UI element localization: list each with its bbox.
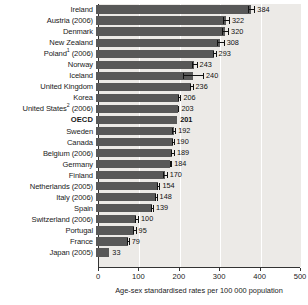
bar <box>96 61 194 69</box>
error-bar-cap-low <box>163 172 164 178</box>
category-label: Austria (2006) <box>0 15 96 26</box>
bar <box>96 149 172 157</box>
category-label: Norway <box>0 59 96 70</box>
category-label: Italy (2006) <box>0 192 96 203</box>
category-label: Korea <box>0 92 96 103</box>
bar <box>96 182 158 190</box>
bar <box>96 50 214 58</box>
bar-value-label: 293 <box>219 49 231 59</box>
bar-cell: 192 <box>96 126 298 137</box>
error-bar-cap-low <box>183 73 184 79</box>
horizontal-bar-chart: Ireland384Austria (2006)322Denmark320New… <box>0 0 308 305</box>
bar <box>96 193 156 201</box>
x-axis-tick <box>138 268 139 271</box>
bar-cell: 243 <box>96 59 298 70</box>
category-label: Sweden <box>0 126 96 137</box>
footnote-marker: 1 <box>67 48 70 54</box>
bar-row: Sweden192 <box>0 126 308 137</box>
error-bar-cap-high <box>157 194 158 200</box>
error-bar-cap-high <box>203 73 204 79</box>
bar-cell: 33 <box>96 247 298 258</box>
bar-cell: 79 <box>96 236 298 247</box>
error-bar-cap-low <box>133 227 134 233</box>
bar-cell: 203 <box>96 103 298 114</box>
error-bar-cap-low <box>192 62 193 68</box>
bar-value-label: 170 <box>170 170 182 180</box>
bar-cell: 240 <box>96 70 298 81</box>
bar-row: Belgium (2006)189 <box>0 148 308 159</box>
bar-row: New Zealand308 <box>0 37 308 48</box>
bar-value-label: 243 <box>200 60 212 70</box>
bar <box>96 160 170 168</box>
bar-row: Italy (2006)148 <box>0 192 308 203</box>
error-bar-cap-high <box>174 150 175 156</box>
error-bar-cap-high <box>197 62 198 68</box>
error-bar-cap-low <box>172 128 173 134</box>
error-bar-cap-high <box>175 128 176 134</box>
bar-value-label: 190 <box>177 137 189 147</box>
bar-cell: 154 <box>96 181 298 192</box>
x-axis-caption: Age-sex standardised rates per 100 000 p… <box>98 286 300 295</box>
bar-value-label: 100 <box>141 214 153 224</box>
bar <box>96 5 251 13</box>
bar-row: Japan (2005)33 <box>0 247 308 258</box>
error-bar <box>183 75 203 76</box>
category-label: Finland <box>0 170 96 181</box>
category-label: Japan (2005) <box>0 247 96 258</box>
bar-row: Spain139 <box>0 203 308 214</box>
bar-value-label: 308 <box>227 38 239 48</box>
bar <box>96 94 179 102</box>
category-label: Switzerland (2006) <box>0 214 96 225</box>
category-label: Netherlands (2005) <box>0 181 96 192</box>
error-bar-cap-high <box>254 6 255 12</box>
error-bar-cap-high <box>167 172 168 178</box>
category-label: Germany <box>0 159 96 170</box>
bar <box>96 204 152 212</box>
bar-value-label: 148 <box>160 192 172 202</box>
error-bar-cap-high <box>138 216 139 222</box>
bar <box>96 72 193 80</box>
bar <box>96 237 128 245</box>
error-bar-cap-high <box>193 84 194 90</box>
error-bar-cap-low <box>222 28 223 34</box>
bar <box>96 105 178 113</box>
bar-row: France79 <box>0 236 308 247</box>
error-bar-cap-high <box>129 238 130 244</box>
bar-row: Denmark320 <box>0 26 308 37</box>
x-axis-tick-label: 0 <box>96 272 100 281</box>
bar-row: Austria (2006)322 <box>0 15 308 26</box>
error-bar-cap-high <box>216 51 217 57</box>
x-axis-line <box>98 267 300 268</box>
bar <box>96 16 226 24</box>
bar-row: Korea206 <box>0 92 308 103</box>
bar-value-label: 201 <box>180 115 192 125</box>
error-bar-cap-high <box>229 17 230 23</box>
category-label: Belgium (2006) <box>0 148 96 159</box>
category-label: Poland1 (2006) <box>0 48 96 59</box>
bar-cell: 201 <box>96 114 298 125</box>
bar-cell: 322 <box>96 15 298 26</box>
bar-rows-container: Ireland384Austria (2006)322Denmark320New… <box>0 4 308 267</box>
bar-row: Finland170 <box>0 170 308 181</box>
error-bar-cap-low <box>248 6 249 12</box>
x-axis-tick-label: 400 <box>253 272 266 281</box>
bar-row: Iceland240 <box>0 70 308 81</box>
bar-cell: 190 <box>96 137 298 148</box>
x-axis-tick-label: 100 <box>132 272 145 281</box>
error-bar-cap-high <box>180 95 181 101</box>
error-bar-cap-high <box>136 227 137 233</box>
category-label: Denmark <box>0 26 96 37</box>
error-bar-cap-low <box>157 183 158 189</box>
bar-row: Ireland384 <box>0 4 308 15</box>
error-bar-cap-low <box>190 84 191 90</box>
error-bar-cap-high <box>174 139 175 145</box>
bar <box>96 127 174 135</box>
bar-row: Norway243 <box>0 59 308 70</box>
bar-cell: 320 <box>96 26 298 37</box>
category-label: United States2 (2006) <box>0 103 96 114</box>
bar-cell: 100 <box>96 214 298 225</box>
bar-cell: 170 <box>96 170 298 181</box>
bar-value-label: 384 <box>257 5 269 15</box>
bar-cell: 293 <box>96 48 298 59</box>
bar-cell: 139 <box>96 203 298 214</box>
